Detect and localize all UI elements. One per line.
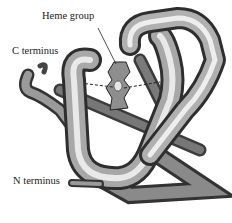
n-terminus-strand [72,183,100,184]
protein-diagram: Heme group C terminus N terminus [0,0,232,223]
protein-ribbon-illustration [0,0,232,223]
c-terminus-label: C terminus [12,45,58,56]
heme-group-label: Heme group [42,10,94,21]
n-terminus-label: N terminus [13,175,60,186]
